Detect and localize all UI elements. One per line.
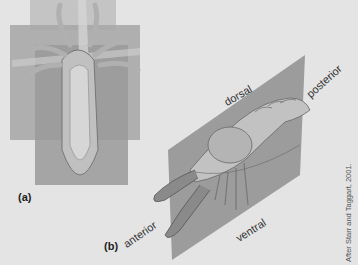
figure-illustration — [0, 0, 358, 265]
figure-credit: After Starr and Taggart, 2001. — [344, 163, 353, 262]
radial-animal-diagram — [10, 0, 140, 185]
panel-label-a: (a) — [18, 191, 31, 203]
crayfish-diagram — [154, 55, 310, 260]
panel-label-b: (b) — [104, 240, 118, 252]
